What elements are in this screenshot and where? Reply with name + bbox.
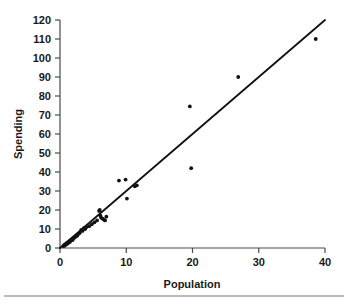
x-tick-label: 20 xyxy=(186,256,198,268)
y-tick-label: 90 xyxy=(39,71,51,83)
x-tick-label: 40 xyxy=(319,256,331,268)
data-point xyxy=(125,197,129,201)
data-point xyxy=(124,178,128,182)
x-tick-label: 0 xyxy=(57,256,63,268)
x-axis-title: Population xyxy=(164,278,221,290)
x-tick-label: 10 xyxy=(120,256,132,268)
data-point xyxy=(188,105,192,109)
y-axis-title: Spending xyxy=(12,109,24,159)
y-tick-label: 100 xyxy=(33,52,51,64)
data-point xyxy=(98,208,102,212)
data-point xyxy=(103,219,107,223)
regression-line xyxy=(60,20,325,248)
scatter-plot-figure: 0102030405060708090100110120 010203040 P… xyxy=(0,0,348,304)
x-axis-ticks: 010203040 xyxy=(57,248,331,268)
y-tick-label: 50 xyxy=(39,147,51,159)
y-tick-label: 120 xyxy=(33,14,51,26)
data-point xyxy=(104,215,108,219)
data-point xyxy=(314,37,318,41)
chart-canvas: 0102030405060708090100110120 010203040 P… xyxy=(0,0,348,304)
data-point xyxy=(135,183,139,187)
x-tick-label: 30 xyxy=(253,256,265,268)
regression-line-group xyxy=(60,20,325,248)
y-tick-label: 20 xyxy=(39,204,51,216)
y-tick-label: 0 xyxy=(45,242,51,254)
y-tick-label: 40 xyxy=(39,166,51,178)
y-tick-label: 30 xyxy=(39,185,51,197)
y-axis-ticks: 0102030405060708090100110120 xyxy=(33,14,60,254)
data-point xyxy=(95,219,99,223)
data-point xyxy=(236,75,240,79)
y-tick-label: 60 xyxy=(39,128,51,140)
data-point xyxy=(117,179,121,183)
y-tick-label: 70 xyxy=(39,109,51,121)
y-tick-label: 110 xyxy=(33,33,51,45)
data-points-group xyxy=(61,37,317,248)
data-point xyxy=(189,166,193,170)
y-tick-label: 80 xyxy=(39,90,51,102)
y-tick-label: 10 xyxy=(39,223,51,235)
